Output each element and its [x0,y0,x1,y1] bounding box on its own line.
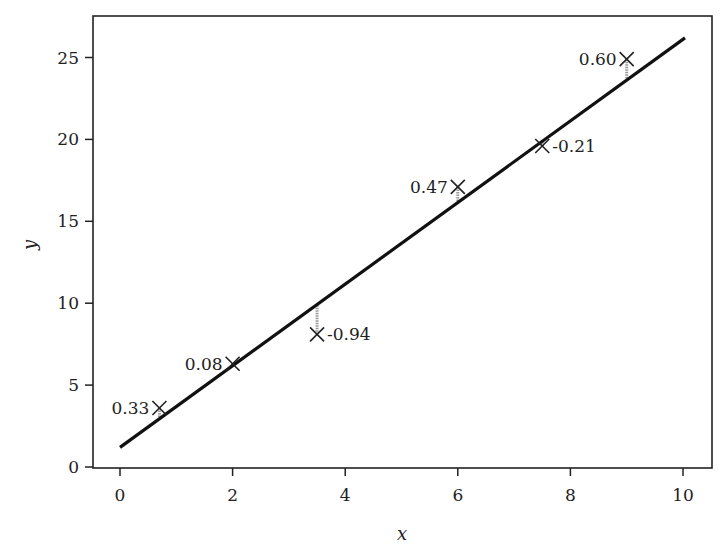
y-tick-label: 25 [57,48,79,68]
x-tick-label: 0 [115,485,126,505]
y-axis-label: y [19,239,40,251]
data-point-x-marker [451,180,465,194]
x-tick-label: 10 [672,485,694,505]
data-point-x-marker [152,401,166,415]
x-axis-label: x [397,523,407,544]
y-tick-label: 5 [68,375,79,395]
scatter-plot-with-fit: 02468100510152025 0.330.08-0.940.47-0.21… [0,0,726,550]
y-tick-label: 20 [57,129,79,149]
residual-label: 0.47 [410,177,448,197]
data-point-x-marker [620,52,634,66]
fitted-line [120,38,685,448]
x-tick-label: 4 [340,485,351,505]
residual-label: -0.21 [552,136,596,156]
x-tick-label: 8 [565,485,576,505]
y-tick-label: 0 [68,457,79,477]
data-point-x-marker [310,327,324,341]
x-tick-label: 2 [227,485,238,505]
residual-label: 0.60 [579,49,617,69]
residual-label: -0.94 [327,324,371,344]
y-tick-label: 15 [57,211,79,231]
y-tick-label: 10 [57,293,79,313]
x-tick-label: 6 [452,485,463,505]
residual-label: 0.08 [185,354,223,374]
residual-label: 0.33 [112,398,150,418]
